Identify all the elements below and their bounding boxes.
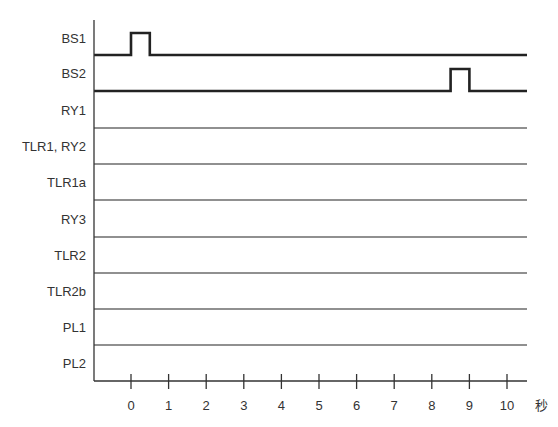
signal-row: BS2 [61, 66, 527, 91]
x-axis-unit: 秒 [535, 398, 548, 413]
x-tick-label: 7 [391, 398, 398, 413]
row-label: BS2 [61, 66, 86, 81]
x-tick-label: 0 [127, 398, 134, 413]
signal-row: BS1 [61, 31, 527, 56]
timing-diagram: BS1BS2RY1TLR1, RY2TLR1aRY3TLR2TLR2bPL1PL… [0, 0, 558, 427]
row-label: RY3 [61, 212, 86, 227]
x-tick-label: 5 [315, 398, 322, 413]
signal-row: TLR1, RY2 [22, 139, 527, 164]
x-tick-label: 2 [203, 398, 210, 413]
row-label: BS1 [61, 31, 86, 46]
x-tick-label: 9 [466, 398, 473, 413]
x-tick-label: 1 [165, 398, 172, 413]
x-tick-label: 6 [353, 398, 360, 413]
x-axis-ticks: 012345678910 [127, 374, 514, 413]
row-label: PL1 [63, 320, 86, 335]
signal-row: TLR2b [47, 284, 527, 309]
signal-row: TLR2 [54, 248, 527, 273]
signal-row: PL2 [63, 356, 86, 371]
x-tick-label: 10 [500, 398, 514, 413]
signal-waveform [94, 69, 527, 91]
signal-rows: BS1BS2RY1TLR1, RY2TLR1aRY3TLR2TLR2bPL1PL… [22, 31, 527, 372]
x-tick-label: 3 [240, 398, 247, 413]
row-label: RY1 [61, 103, 86, 118]
row-label: TLR2b [47, 284, 86, 299]
x-tick-label: 4 [278, 398, 285, 413]
row-label: PL2 [63, 356, 86, 371]
signal-row: PL1 [63, 320, 527, 345]
row-label: TLR1a [47, 175, 87, 190]
x-tick-label: 8 [428, 398, 435, 413]
row-label: TLR1, RY2 [22, 139, 86, 154]
row-label: TLR2 [54, 248, 86, 263]
signal-row: RY3 [61, 212, 527, 238]
signal-row: TLR1a [47, 175, 527, 200]
signal-waveform [94, 33, 527, 55]
signal-row: RY1 [61, 103, 527, 129]
